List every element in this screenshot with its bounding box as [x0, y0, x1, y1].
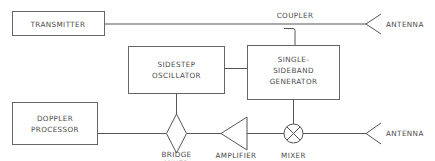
single-sideband-generator-block: SINGLE- SIDEBAND GENERATOR: [248, 46, 340, 100]
transmitter-block: TRANSMITTER: [13, 12, 105, 36]
bridge-mixer-label-2: MIXER: [164, 159, 189, 161]
amplifier-icon: [221, 117, 247, 150]
ssb-generator-label-2: SIDEBAND: [273, 66, 314, 75]
coupler: COUPLER: [277, 11, 314, 45]
mixer-icon: [284, 124, 303, 143]
ssb-generator-label-3: GENERATOR: [270, 77, 318, 86]
antenna-bottom-icon: ANTENNA: [366, 123, 424, 144]
sidestep-oscillator-label-1: SIDESTEP: [158, 60, 196, 69]
sidestep-oscillator-label-2: OSCILLATOR: [152, 71, 201, 80]
antenna-bottom-label: ANTENNA: [386, 129, 424, 138]
amplifier-label: AMPLIFIER: [216, 151, 257, 160]
bridge-mixer-icon: [167, 114, 187, 153]
mixer-label: MIXER: [281, 151, 306, 160]
antenna-top-icon: ANTENNA: [366, 14, 424, 34]
sidestep-oscillator-block: SIDESTEP OSCILLATOR: [129, 47, 225, 94]
transmitter-label: TRANSMITTER: [30, 20, 86, 29]
doppler-processor-block: DOPPLER PROCESSOR: [13, 103, 98, 145]
doppler-processor-label-1: DOPPLER: [37, 114, 73, 123]
coupler-label: COUPLER: [277, 11, 314, 20]
doppler-processor-label-2: PROCESSOR: [31, 125, 79, 134]
bridge-mixer-label-1: BRIDGE: [161, 150, 191, 159]
antenna-top-label: ANTENNA: [386, 20, 424, 29]
block-diagram: TRANSMITTER COUPLER ANTENNA SIDESTEP OSC…: [0, 0, 435, 161]
ssb-generator-label-1: SINGLE-: [278, 55, 310, 64]
